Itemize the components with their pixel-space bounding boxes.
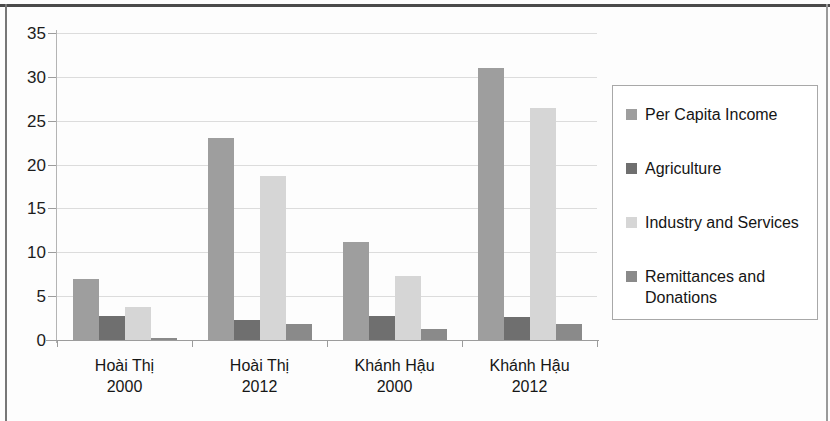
y-axis-tick-mark [48, 77, 56, 78]
x-axis-label-line: Hoài Thị [185, 355, 335, 376]
legend-item-label: Agriculture [645, 159, 721, 180]
plot-area [57, 33, 597, 340]
x-axis-label-line: Hoài Thị [50, 355, 200, 376]
legend-swatch-icon [626, 109, 637, 120]
bar [421, 329, 447, 340]
bar [73, 279, 99, 340]
x-axis-tick-mark [327, 340, 328, 347]
bar [125, 307, 151, 340]
legend-item-label: Industry and Services [645, 213, 799, 234]
bar-group [192, 33, 327, 340]
x-axis-label-line: 2000 [50, 376, 200, 397]
bar [395, 276, 421, 340]
bar [369, 316, 395, 340]
legend: Per Capita IncomeAgricultureIndustry and… [612, 85, 818, 320]
page-border-top [0, 4, 830, 7]
x-axis-label-line: Khánh Hậu [320, 355, 470, 376]
x-axis-tick-mark [462, 340, 463, 347]
bar-group [327, 33, 462, 340]
legend-swatch-icon [626, 163, 637, 174]
bar [260, 176, 286, 340]
y-axis-tick-label: 20 [12, 157, 46, 174]
y-axis-tick-label: 15 [12, 200, 46, 217]
y-axis-tick-mark [48, 33, 56, 34]
bar-group [57, 33, 192, 340]
x-axis-tick-mark [192, 340, 193, 347]
legend-item-label: Per Capita Income [645, 105, 778, 126]
legend-swatch-icon [626, 217, 637, 228]
legend-item[interactable]: Agriculture [626, 159, 721, 180]
x-axis-label-line: 2000 [320, 376, 470, 397]
x-axis-label-line: 2012 [455, 376, 605, 397]
x-axis-line [46, 340, 599, 341]
legend-item[interactable]: Industry and Services [626, 213, 799, 234]
legend-item[interactable]: Per Capita Income [626, 105, 778, 126]
bar [478, 68, 504, 340]
y-axis-tick-label: 10 [12, 244, 46, 261]
bar [530, 108, 556, 340]
page-border-right [826, 4, 828, 421]
x-axis-label-line: Khánh Hậu [455, 355, 605, 376]
legend-item[interactable]: Remittances and Donations [626, 267, 765, 309]
y-axis-tick-label: 35 [12, 25, 46, 42]
bar [208, 138, 234, 340]
x-axis-label-line: 2012 [185, 376, 335, 397]
y-axis-tick-label: 5 [12, 288, 46, 305]
y-axis-tick-mark [48, 252, 56, 253]
x-axis-tick-mark [597, 340, 598, 347]
bar [504, 317, 530, 340]
chart-page: 05101520253035 Hoài Thị2000Hoài Thị2012K… [0, 0, 830, 421]
x-axis-tick-mark [57, 340, 58, 347]
x-axis-label: Khánh Hậu2000 [320, 355, 470, 398]
y-axis-tick-mark [48, 121, 56, 122]
legend-item-label: Remittances and Donations [645, 267, 765, 309]
y-axis-tick-label: 30 [12, 69, 46, 86]
bar [234, 320, 260, 340]
x-axis-label: Hoài Thị2000 [50, 355, 200, 398]
bar-group [462, 33, 597, 340]
y-axis-tick-mark [48, 296, 56, 297]
y-axis-tick-label: 25 [12, 113, 46, 130]
bar [343, 242, 369, 340]
y-axis-tick-label: 0 [12, 332, 46, 349]
y-axis-tick-mark [48, 165, 56, 166]
bar [286, 324, 312, 340]
bar [99, 316, 125, 340]
bar [556, 324, 582, 340]
y-axis-tick-mark [48, 208, 56, 209]
x-axis-label: Khánh Hậu2012 [455, 355, 605, 398]
y-axis-tick-labels: 05101520253035 [0, 0, 46, 421]
bar [151, 338, 177, 340]
x-axis-label: Hoài Thị2012 [185, 355, 335, 398]
legend-swatch-icon [626, 271, 637, 282]
